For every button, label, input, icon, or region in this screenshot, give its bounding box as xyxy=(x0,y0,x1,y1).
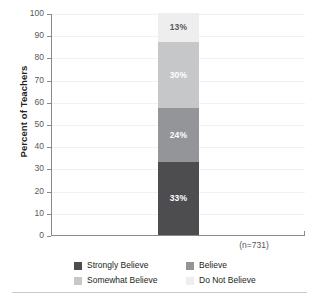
y-axis-tick-label: 0 xyxy=(4,230,44,240)
legend-swatch-icon xyxy=(74,262,82,270)
sample-size-label: (n=731) xyxy=(239,240,269,250)
tick-mark xyxy=(47,169,51,170)
y-axis-tick-label: 70 xyxy=(4,75,44,85)
x-axis-right-cap xyxy=(304,231,305,236)
tick-mark xyxy=(47,214,51,215)
tick-mark xyxy=(47,147,51,148)
y-axis-tick-label: 80 xyxy=(4,52,44,62)
x-axis-category-label: (n=731) xyxy=(51,240,305,250)
bar-segment-label: 33% xyxy=(170,194,188,203)
legend-item[interactable]: Do Not Believe xyxy=(186,274,292,287)
bar-segment-label: 30% xyxy=(170,71,188,80)
legend-label: Strongly Believe xyxy=(87,261,148,270)
y-axis-title: Percent of Teachers xyxy=(18,42,29,182)
legend-label: Do Not Believe xyxy=(199,276,256,285)
bar-segment-label: 13% xyxy=(170,23,188,32)
legend-item[interactable]: Somewhat Believe xyxy=(74,274,186,287)
tick-mark xyxy=(47,36,51,37)
y-axis-tick-label: 10 xyxy=(4,208,44,218)
y-axis-tick-label: 60 xyxy=(4,97,44,107)
bar-segment-label: 24% xyxy=(170,131,188,140)
legend-swatch-icon xyxy=(74,277,82,285)
legend-label: Somewhat Believe xyxy=(87,276,157,285)
x-axis-line xyxy=(51,235,305,236)
plot-area: 1009080706050403020100 13%30%24%33% xyxy=(51,14,305,236)
bar-segment[interactable]: 13% xyxy=(158,13,199,42)
y-axis-tick-label: 100 xyxy=(4,8,44,18)
tick-mark xyxy=(47,58,51,59)
tick-mark xyxy=(47,236,51,237)
y-axis-tick-label: 50 xyxy=(4,119,44,129)
bar-segment[interactable]: 24% xyxy=(158,108,199,161)
legend-item[interactable]: Strongly Believe xyxy=(74,259,186,272)
tick-mark xyxy=(47,14,51,15)
y-axis-tick-label: 40 xyxy=(4,141,44,151)
tick-mark xyxy=(47,81,51,82)
legend-swatch-icon xyxy=(186,277,194,285)
tick-mark xyxy=(47,103,51,104)
tick-mark xyxy=(47,192,51,193)
stacked-bar-chart: Percent of Teachers 10090807060504030201… xyxy=(0,0,319,302)
y-axis-tick-label: 90 xyxy=(4,30,44,40)
tick-mark xyxy=(47,125,51,126)
y-axis-tick-label: 30 xyxy=(4,163,44,173)
bar-segment[interactable]: 33% xyxy=(158,162,199,235)
bar-segment[interactable]: 30% xyxy=(158,42,199,109)
legend-label: Believe xyxy=(199,261,227,270)
bar-column[interactable]: 13%30%24%33% xyxy=(158,13,199,235)
legend-swatch-icon xyxy=(186,262,194,270)
footer-divider xyxy=(12,292,307,293)
y-axis-tick-label: 20 xyxy=(4,186,44,196)
legend-item[interactable]: Believe xyxy=(186,259,292,272)
chart-legend: Strongly BelieveBelieveSomewhat BelieveD… xyxy=(74,259,292,287)
